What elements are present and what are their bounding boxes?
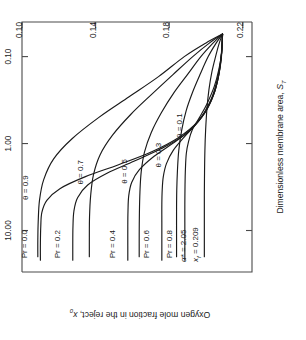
x-axis-title: Dimensionless membrane area, ST (275, 79, 287, 213)
y-tick-label: 0.14 (89, 22, 98, 38)
x-tick-label: 0.10 (4, 48, 13, 64)
y-axis-title-sub: 0 (69, 308, 73, 314)
annotation-alpha-star: α* = 2.05 (179, 229, 188, 262)
label-pr-0-2: Pr = 0.2 (53, 230, 62, 259)
x-axis-title-sub: T (281, 79, 287, 84)
figure-root: 0.101.0010.000.220.180.140.10Pr = 0.8Pr … (0, 0, 306, 340)
label-pr-0: Pr = 0.0 (20, 230, 29, 259)
curve-pressure-ratio (185, 34, 223, 260)
curve-pressure-ratio (40, 34, 222, 260)
y-tick-label: 0.10 (15, 22, 24, 38)
labels-group: 0.101.0010.000.220.180.140.10Pr = 0.8Pr … (4, 22, 245, 259)
label-pr-0-4: Pr = 0.4 (108, 230, 117, 259)
x-tick-label: 1.00 (4, 135, 13, 151)
label-theta-0-7: θ = 0.7 (76, 159, 85, 184)
y-axis-title: Oxygen mole fraction in the reject, x0 (69, 308, 210, 320)
label-pr-0-6: Pr = 0.6 (142, 230, 151, 259)
curve-pressure-ratio (73, 34, 223, 260)
y-tick-label: 0.18 (162, 22, 171, 38)
annotation-feed-fraction: xf = 0.209 (191, 227, 202, 263)
y-axis-title-text: Oxygen mole fraction in the reject, (77, 310, 210, 320)
x-tick-label: 10.00 (4, 220, 13, 241)
chart-svg: 0.101.0010.000.220.180.140.10Pr = 0.8Pr … (0, 0, 306, 340)
label-pr-0-8: Pr = 0.8 (165, 230, 174, 259)
label-theta-0-5: θ = 0.5 (120, 159, 129, 184)
x-axis-title-text: Dimensionless membrane area, (275, 90, 285, 214)
label-theta-0-9: θ = 0.9 (21, 175, 30, 200)
curve-stage-cut (177, 34, 223, 257)
chart-canvas: 0.101.0010.000.220.180.140.10Pr = 0.8Pr … (0, 0, 306, 340)
alpha-value: = 2.05 (179, 229, 188, 252)
xf-value: = 0.209 (191, 227, 200, 257)
curve-stage-cut (38, 34, 223, 257)
label-theta-0-3: θ = 0.3 (154, 142, 163, 167)
alpha-symbol: α* (179, 252, 188, 262)
label-theta-0-1: θ = 0.1 (175, 113, 184, 138)
y-tick-label: 0.22 (236, 22, 245, 38)
